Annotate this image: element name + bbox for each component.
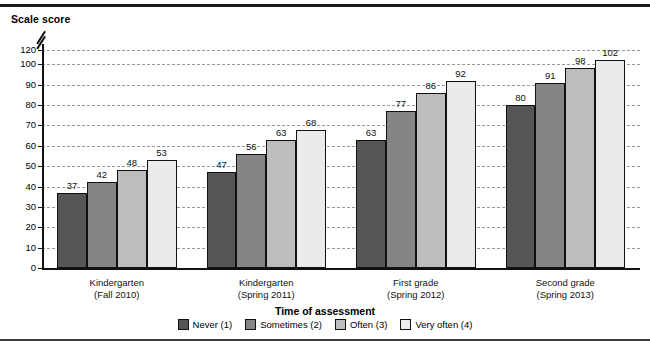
category-label-line: (Spring 2013)	[488, 289, 644, 301]
top-divider-rule	[0, 4, 650, 7]
y-axis-tick-label: 60	[8, 141, 36, 151]
bar	[416, 93, 446, 268]
bar-value-label: 48	[117, 158, 147, 168]
bar-value-label: 63	[356, 128, 386, 138]
legend-swatch-icon	[335, 319, 346, 330]
legend-swatch-icon	[245, 319, 256, 330]
bar	[57, 193, 87, 268]
category-label-line: (Fall 2010)	[39, 289, 195, 301]
legend-item: Very often (4)	[400, 319, 472, 330]
category-label-line: (Spring 2012)	[338, 289, 494, 301]
bar	[356, 140, 386, 268]
gridline	[42, 64, 640, 65]
y-axis-break-icon	[35, 29, 53, 49]
x-axis-title: Time of assessment	[0, 305, 650, 317]
bar-value-label: 42	[87, 170, 117, 180]
bar	[565, 68, 595, 268]
bar-value-label: 86	[416, 81, 446, 91]
bar-value-label: 92	[446, 69, 476, 79]
bar	[386, 111, 416, 268]
y-axis-tick-label: 120	[8, 45, 36, 55]
legend-label: Sometimes (2)	[260, 320, 322, 330]
y-axis-tick-label: 20	[8, 222, 36, 232]
legend-swatch-icon	[178, 319, 189, 330]
x-axis-category-label: Kindergarten(Spring 2011)	[189, 277, 345, 300]
gridline	[42, 50, 640, 51]
y-axis-tick-label: 90	[8, 80, 36, 90]
bar	[87, 182, 117, 268]
legend-swatch-icon	[400, 319, 411, 330]
bottom-divider-rule	[0, 339, 650, 341]
bar-value-label: 37	[57, 181, 87, 191]
legend-item: Sometimes (2)	[245, 319, 322, 330]
bar-value-label: 98	[565, 56, 595, 66]
bar-value-label: 91	[535, 71, 565, 81]
y-axis-tick-label: 100	[8, 59, 36, 69]
bar	[266, 140, 296, 268]
bar	[506, 105, 536, 268]
y-axis-tick-label: 10	[8, 243, 36, 253]
bar	[595, 60, 625, 268]
bar	[296, 130, 326, 268]
category-label-line: Kindergarten	[189, 277, 345, 289]
legend-label: Very often (4)	[415, 320, 472, 330]
bar	[236, 154, 266, 268]
bar-value-label: 102	[595, 48, 625, 58]
bar	[147, 160, 177, 268]
y-axis-tick-label: 70	[8, 120, 36, 130]
bar-value-label: 63	[266, 128, 296, 138]
x-axis-category-label: Second grade(Spring 2013)	[488, 277, 644, 300]
bar-value-label: 68	[296, 118, 326, 128]
bar-value-label: 77	[386, 99, 416, 109]
footnote-text	[6, 344, 646, 350]
bar	[207, 172, 237, 268]
bar	[117, 170, 147, 268]
bar-value-label: 80	[506, 93, 536, 103]
plot-area: 374248534756636863778692809198102	[42, 30, 640, 268]
y-axis-title: Scale score	[11, 13, 70, 25]
y-axis-tick-label: 40	[8, 182, 36, 192]
chart-legend: Never (1)Sometimes (2)Often (3)Very ofte…	[0, 319, 650, 330]
legend-label: Never (1)	[193, 320, 233, 330]
y-axis-tick-label: 30	[8, 202, 36, 212]
x-axis-line	[42, 268, 640, 270]
category-label-line: Kindergarten	[39, 277, 195, 289]
category-label-line: Second grade	[488, 277, 644, 289]
y-axis-tick-label: 80	[8, 100, 36, 110]
bar-value-label: 47	[207, 160, 237, 170]
chart-figure: Scale score 0102030405060708090100120 37…	[0, 0, 650, 350]
legend-label: Often (3)	[350, 320, 388, 330]
x-axis-category-label: First grade(Spring 2012)	[338, 277, 494, 300]
category-label-line: First grade	[338, 277, 494, 289]
x-axis-category-label: Kindergarten(Fall 2010)	[39, 277, 195, 300]
bar-value-label: 53	[147, 148, 177, 158]
legend-item: Often (3)	[335, 319, 388, 330]
bar	[446, 81, 476, 268]
bar	[535, 83, 565, 268]
y-axis-line	[42, 44, 44, 269]
legend-item: Never (1)	[178, 319, 233, 330]
category-label-line: (Spring 2011)	[189, 289, 345, 301]
y-axis-tick-label: 50	[8, 161, 36, 171]
y-axis-tick-label: 0	[8, 263, 36, 273]
bar-value-label: 56	[236, 142, 266, 152]
